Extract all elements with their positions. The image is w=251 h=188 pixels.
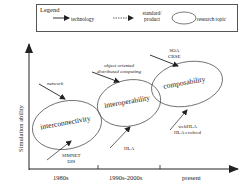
diagram-canvas <box>0 0 251 188</box>
label-hla: HLA <box>124 146 134 152</box>
label-simnet-dis: SIMNET DIS <box>62 153 81 164</box>
x-tick-1980s: 1980s <box>53 174 69 181</box>
label-webhla: webHLA HLA evolved <box>174 124 201 135</box>
label-oo-line2: distributed computing <box>97 69 141 74</box>
label-hla-evolved: HLA evolved <box>174 130 201 135</box>
ellipse-icon <box>172 12 196 24</box>
label-dis: DIS <box>67 159 75 164</box>
y-axis-label: Simulation ability <box>17 105 24 152</box>
arrow-hla <box>110 127 130 148</box>
label-network: network <box>47 81 63 87</box>
label-webhla-line1: webHLA <box>178 124 197 129</box>
label-simnet: SIMNET <box>62 153 81 158</box>
label-cbse: CBSE <box>168 54 181 59</box>
x-tick-present: present <box>182 174 201 181</box>
label-object-oriented: object oriented distributed computing <box>97 63 141 74</box>
x-axis <box>29 165 238 169</box>
label-oo-line1: object oriented <box>104 63 134 68</box>
label-soa-cbse: SOA CBSE <box>168 48 181 59</box>
label-soa: SOA <box>169 48 179 53</box>
x-tick-1990s-2000s: 1990s-2000s <box>109 174 142 181</box>
